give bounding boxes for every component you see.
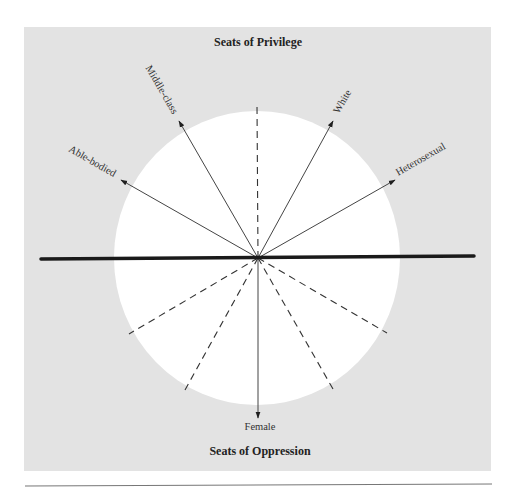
bottom-rule bbox=[25, 484, 492, 486]
bottom-title: Seats of Oppression bbox=[209, 444, 310, 458]
top-title: Seats of Privilege bbox=[214, 35, 303, 49]
privilege-oppression-diagram: Seats of Privilege Able-bodied Middle-cl… bbox=[0, 0, 514, 498]
label-female: Female bbox=[245, 421, 276, 432]
